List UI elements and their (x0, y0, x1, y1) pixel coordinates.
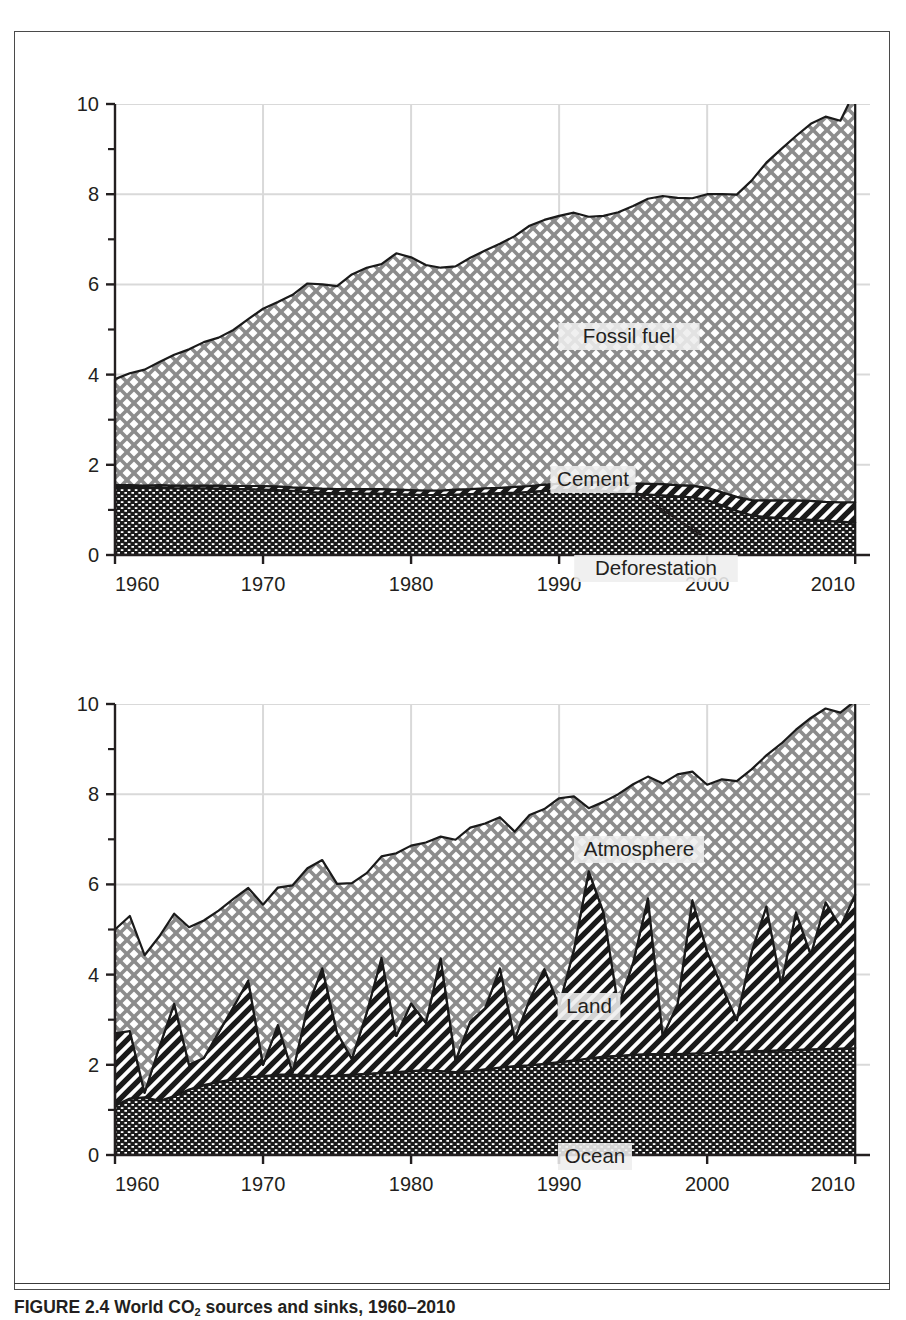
svg-text:Fossil fuel: Fossil fuel (583, 324, 675, 347)
series-label-deforestation: Deforestation (574, 555, 738, 582)
svg-text:Atmosphere: Atmosphere (584, 837, 695, 860)
y-tick-label: 6 (88, 273, 99, 295)
y-tick-label: 2 (88, 454, 99, 476)
chart-sinks: CO2 sinks0246810196019701980199020002010… (15, 632, 891, 1252)
x-tick-label: 1970 (241, 573, 286, 595)
y-tick-label: 4 (88, 964, 99, 986)
stacked-areas (115, 701, 855, 1155)
x-tick-label: 1990 (537, 1173, 582, 1195)
series-label-cement: Cement (550, 466, 635, 493)
x-tick-label: 1960 (115, 1173, 160, 1195)
chart-sources: CO2 sources02468101960197019801990200020… (15, 32, 891, 652)
caption-body: World CO (109, 1297, 194, 1317)
svg-text:Deforestation: Deforestation (595, 556, 717, 579)
series-label-fossil-fuel: Fossil fuel (558, 323, 699, 350)
series-label-ocean: Ocean (558, 1143, 632, 1170)
svg-text:Ocean: Ocean (565, 1144, 625, 1167)
y-tick-label: 8 (88, 183, 99, 205)
x-tick-label: 1980 (389, 1173, 434, 1195)
stacked-areas (115, 90, 855, 555)
figure-caption: FIGURE 2.4 World CO2 sources and sinks, … (14, 1297, 890, 1318)
series-label-land: Land (558, 993, 621, 1020)
area-fossil-fuel (115, 90, 855, 502)
x-tick-label: 1970 (241, 1173, 286, 1195)
figure-page: CO2 sources02468101960197019801990200020… (0, 0, 906, 1320)
y-tick-label: 10 (77, 93, 99, 115)
series-label-atmosphere: Atmosphere (574, 836, 704, 863)
y-tick-label: 8 (88, 783, 99, 805)
figure-frame: CO2 sources02468101960197019801990200020… (14, 31, 890, 1290)
svg-text:Cement: Cement (557, 467, 629, 490)
x-tick-label: 2010 (811, 573, 856, 595)
y-tick-label: 2 (88, 1054, 99, 1076)
caption-subscript: 2 (195, 1306, 201, 1318)
y-tick-label: 0 (88, 544, 99, 566)
x-tick-label: 2000 (685, 1173, 730, 1195)
caption-rest: sources and sinks, 1960–2010 (201, 1297, 456, 1317)
x-tick-label: 2010 (811, 1173, 856, 1195)
y-tick-label: 10 (77, 693, 99, 715)
y-tick-label: 6 (88, 873, 99, 895)
x-tick-label: 1980 (389, 573, 434, 595)
y-tick-label: 4 (88, 364, 99, 386)
x-tick-label: 1960 (115, 573, 160, 595)
caption-prefix: FIGURE 2.4 (14, 1297, 109, 1317)
y-tick-label: 0 (88, 1144, 99, 1166)
svg-text:Land: Land (566, 994, 612, 1017)
caption-divider (14, 1283, 890, 1284)
